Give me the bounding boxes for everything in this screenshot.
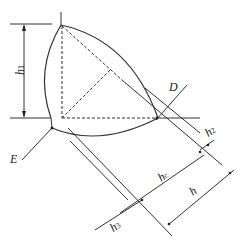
parallel-line-h3 (70, 141, 128, 200)
dashed-diagonal (62, 26, 122, 80)
h1-arrow-bottom (22, 111, 26, 118)
e-label: E (10, 153, 17, 165)
parallel-line-lower (68, 128, 172, 236)
dashed-back-diagonal (62, 70, 110, 118)
h-mark-high (229, 172, 232, 175)
h-dimension-line (168, 170, 234, 225)
diagram-drawing (0, 0, 245, 245)
bottom-arc (52, 118, 158, 136)
h1-arrow-top (22, 24, 26, 31)
hc-mark (199, 151, 202, 154)
d-point (156, 117, 159, 120)
left-connector (51, 118, 52, 128)
parallel-line-inner (145, 88, 200, 133)
top-arc (61, 25, 158, 118)
d-label: D (169, 81, 178, 93)
left-arc (44, 25, 61, 118)
diagram-canvas: h1 D E h2 hc h h3 (0, 0, 245, 245)
h-mark-low (168, 223, 171, 226)
e-point (51, 127, 54, 130)
e-leader-line (22, 129, 51, 160)
h3-mark (141, 199, 144, 202)
h2-mark (207, 144, 210, 147)
h1-label: h1 (14, 65, 26, 75)
